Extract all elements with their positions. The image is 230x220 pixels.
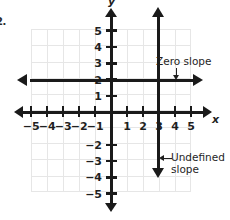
y-tick-label-neg5: −5	[84, 189, 102, 200]
y-tick-3	[106, 62, 117, 65]
x-tick-label-neg1: −1	[86, 121, 104, 132]
x-axis-arrow-right-icon	[203, 106, 212, 118]
y-tick-label-3: 3	[84, 58, 102, 69]
zero-slope-arrow-right-icon	[193, 74, 203, 86]
x-tick-neg2	[78, 106, 81, 117]
x-axis-label: x	[212, 114, 219, 125]
undefined-slope-annotation: Undefined slope	[171, 152, 225, 176]
undefined-slope-arrow-up-icon	[152, 7, 164, 17]
undefined-slope-line	[157, 16, 160, 171]
x-tick-neg3	[62, 106, 65, 117]
x-tick-neg5	[30, 106, 33, 117]
y-tick-neg2	[106, 144, 117, 147]
undefined-slope-arrow-down-icon	[152, 168, 164, 178]
y-tick-label-5: 5	[84, 26, 102, 37]
zero-slope-line	[30, 79, 195, 82]
y-axis-arrow-up-icon	[105, 8, 117, 17]
x-tick-label-5: 5	[182, 121, 200, 132]
x-tick-neg4	[46, 106, 49, 117]
y-tick-neg5	[106, 192, 117, 195]
y-tick-label-neg3: −3	[84, 156, 102, 167]
x-tick-1	[126, 106, 129, 117]
y-tick-label-neg2: −2	[84, 140, 102, 151]
x-tick-5	[190, 106, 193, 117]
x-tick-neg1	[94, 106, 97, 117]
undefined-slope-callout-arrow-icon	[163, 158, 172, 159]
x-axis-arrow-left-icon	[14, 106, 23, 118]
y-tick-neg3	[106, 160, 117, 163]
x-tick-2	[142, 106, 145, 117]
y-tick-4	[106, 46, 117, 49]
y-axis-label: y	[108, 0, 115, 7]
zero-slope-callout-arrowhead-icon	[173, 75, 179, 80]
problem-number: 2.	[0, 17, 6, 27]
y-tick-5	[106, 29, 117, 32]
y-tick-label-1: 1	[84, 91, 102, 102]
y-tick-neg4	[106, 176, 117, 179]
y-tick-label-neg4: −4	[84, 172, 102, 183]
zero-slope-annotation: Zero slope	[156, 56, 211, 68]
y-tick-label-4: 4	[84, 42, 102, 53]
zero-slope-arrow-left-icon	[17, 74, 27, 86]
graph-figure: 2. x y −5−4−3−2−11234554321−2−3−4−5 Zero…	[0, 0, 230, 220]
x-tick-4	[174, 106, 177, 117]
y-tick-1	[106, 95, 117, 98]
undefined-slope-callout-arrowhead-icon	[159, 155, 164, 161]
y-axis-arrow-down-icon	[105, 203, 117, 212]
